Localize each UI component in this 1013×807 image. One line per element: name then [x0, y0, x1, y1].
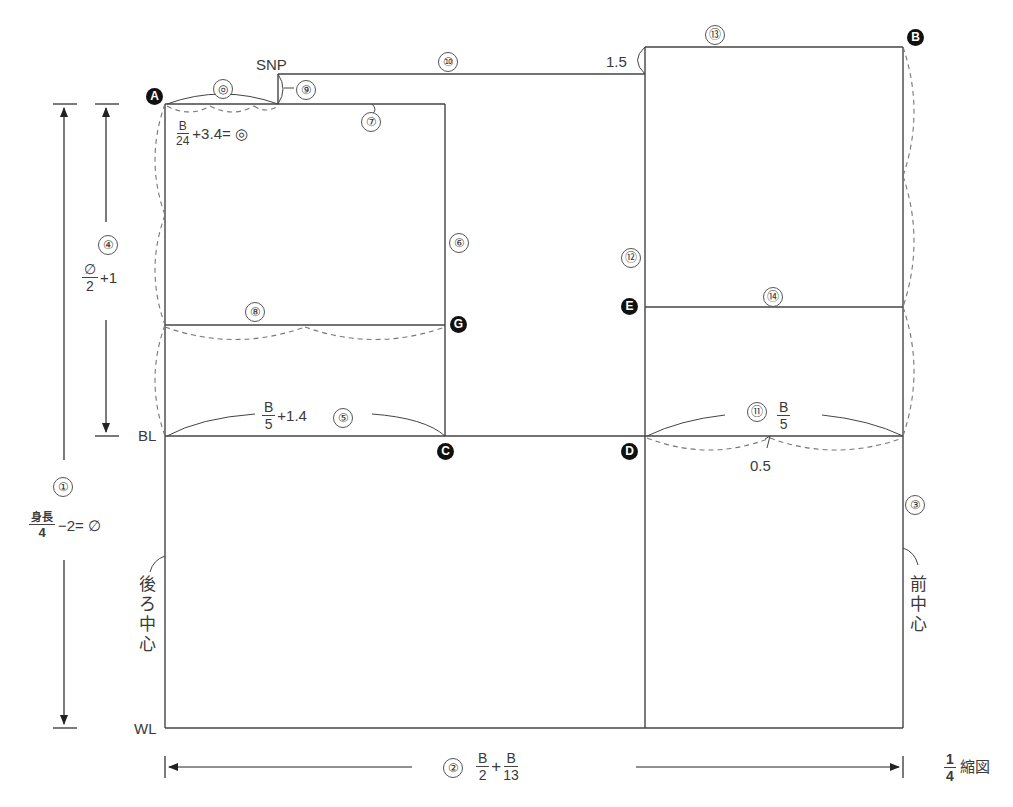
point-g: G	[450, 316, 467, 333]
front-center-label: 前 中 心	[908, 574, 928, 634]
front-bodice-outline	[645, 47, 903, 728]
step-13: ⑬	[705, 25, 725, 45]
step-8: ⑧	[245, 302, 265, 322]
pattern-draft-lines	[0, 0, 1013, 807]
formula-4: ∅ 2 +1	[82, 262, 117, 293]
point-b: B	[907, 29, 924, 46]
shoulder-drop-bracket	[638, 47, 646, 74]
bust-line-label: BL	[138, 428, 156, 443]
scale-note: 1 4 縮図	[944, 752, 990, 783]
snp-label: SNP	[256, 57, 287, 72]
neck-raise-line	[278, 74, 645, 104]
back-center-label: 後 ろ 中 心	[137, 574, 157, 654]
step-2: ②	[443, 758, 463, 778]
point-a: A	[146, 88, 163, 105]
step-10: ⑩	[438, 52, 458, 72]
step-14: ⑭	[763, 287, 783, 307]
waist-line-label: WL	[134, 721, 157, 736]
step-7: ⑦	[361, 112, 381, 132]
step-12: ⑫	[621, 248, 641, 268]
point-c: C	[437, 443, 454, 460]
step-9: ⑨	[296, 80, 316, 100]
formula-1: 身長 4 −2= ∅	[29, 512, 101, 539]
step-3: ③	[905, 495, 925, 515]
step-4: ④	[98, 235, 118, 255]
step-1: ①	[53, 477, 73, 497]
neck-width-mark: ◎	[213, 79, 233, 99]
step-11: ⑪	[747, 402, 767, 422]
point-e: E	[621, 298, 638, 315]
point-d: D	[621, 443, 638, 460]
shoulder-drop-value: 1.5	[606, 54, 627, 69]
formula-5: B 5 +1.4	[262, 400, 307, 431]
formula-2: B 2 + B 13	[476, 751, 519, 782]
front-dart-value: 0.5	[750, 458, 771, 473]
formula-neck: B 24 +3.4= ◎	[176, 120, 248, 147]
step-6: ⑥	[449, 233, 469, 253]
formula-11: B 5	[777, 398, 790, 431]
step-5: ⑤	[333, 408, 353, 428]
dashed-division-curves	[155, 47, 914, 450]
